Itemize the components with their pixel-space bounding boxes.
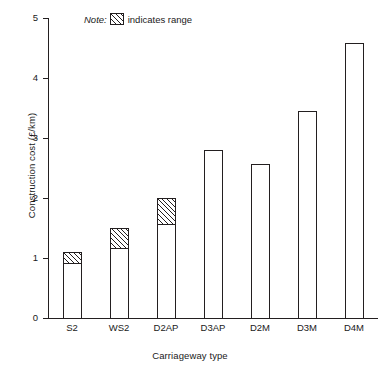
- y-axis-tick-label: 2: [14, 193, 38, 203]
- bar-d3ap: [204, 150, 223, 318]
- y-axis-tick: [43, 78, 49, 79]
- note-text: indicates range: [128, 14, 192, 25]
- hatched-range-swatch-icon: [110, 13, 124, 25]
- y-axis-tick: [43, 198, 49, 199]
- x-axis-title: Carriageway type: [0, 350, 380, 361]
- range-band-ws2: [110, 228, 129, 249]
- x-axis-tick-label-d4m: D4M: [324, 322, 380, 333]
- y-axis-tick-label: 0: [14, 313, 38, 323]
- y-axis-tick: [43, 258, 49, 259]
- y-axis-tick: [43, 318, 49, 319]
- bar-d4m: [345, 43, 364, 318]
- y-axis-tick-label: 1: [14, 253, 38, 263]
- range-band-d2ap: [157, 198, 176, 225]
- y-axis-line: [48, 18, 49, 319]
- bar-d2m: [251, 164, 270, 318]
- y-axis-tick-label: 3: [14, 133, 38, 143]
- y-axis-tick-label: 5: [14, 13, 38, 23]
- y-axis-tick-label: 4: [14, 73, 38, 83]
- range-band-s2: [63, 252, 82, 264]
- bar-d3m: [298, 111, 317, 318]
- y-axis-tick: [43, 138, 49, 139]
- note-label: Note:: [84, 14, 107, 25]
- y-axis-title: Construction cost (£/km): [26, 66, 37, 266]
- chart-note-legend: Note: indicates range: [84, 13, 192, 25]
- y-axis-tick: [43, 18, 49, 19]
- bar-chart-figure: Construction cost (£/km) Carriageway typ…: [0, 0, 380, 371]
